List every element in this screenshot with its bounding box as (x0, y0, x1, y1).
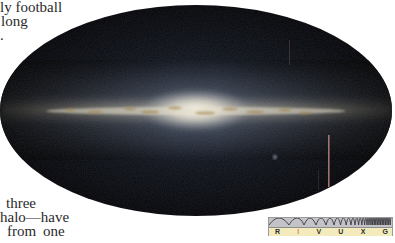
text-line: from one (0, 224, 69, 238)
band-label-v: V (316, 228, 321, 236)
band-label-x: X (361, 228, 366, 236)
band-label-r: R (275, 228, 280, 236)
wave-graphic (269, 218, 392, 228)
band-labels: R I V U X G (269, 228, 392, 236)
band-label-i-highlighted: I (297, 228, 299, 236)
band-label-g: G (383, 228, 388, 236)
band-label-u: U (338, 228, 343, 236)
milky-way-infrared-image (0, 5, 393, 216)
wavelength-indicator: R I V U X G (268, 217, 393, 236)
